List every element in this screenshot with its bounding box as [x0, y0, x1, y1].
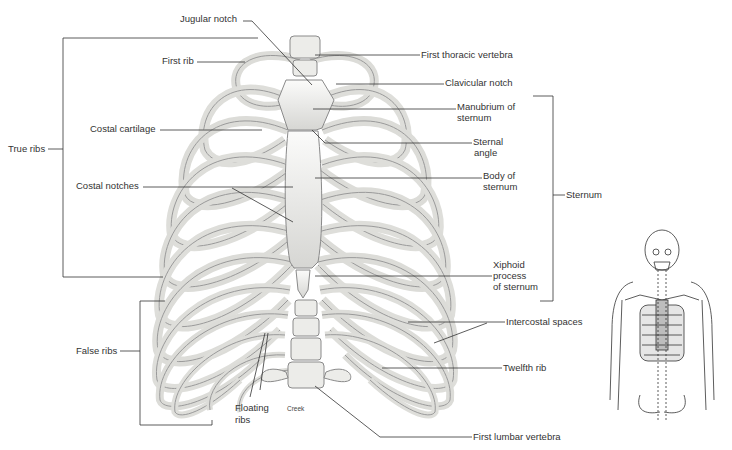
label-first-thoracic-vertebra: First thoracic vertebra	[421, 49, 513, 60]
label-floating-line1: Floating	[235, 402, 269, 413]
label-sternum: Sternum	[566, 189, 602, 200]
label-true-ribs: True ribs	[8, 143, 45, 154]
label-costal-cartilage: Costal cartilage	[90, 123, 155, 134]
label-false-ribs: False ribs	[76, 345, 117, 356]
label-body-line2: sternum	[483, 181, 517, 192]
artist-credit: Creek	[287, 403, 304, 414]
label-intercostal-spaces: Intercostal spaces	[506, 316, 583, 327]
label-sternal-angle-line2: angle	[474, 147, 497, 158]
label-manubrium-line1: Manubrium of	[457, 101, 515, 112]
label-xiphoid-line1: Xiphoid	[493, 259, 525, 270]
label-body-line1: Body of	[483, 170, 515, 181]
rib-cage-illustration	[0, 0, 732, 450]
inset-skeleton	[610, 230, 714, 420]
left-ribs	[156, 55, 300, 414]
thoracic-cage-diagram: Jugular notch First rib First thoracic v…	[0, 0, 732, 450]
label-manubrium-line2: sternum	[457, 112, 491, 123]
label-costal-notches: Costal notches	[76, 180, 139, 191]
label-first-rib: First rib	[162, 55, 194, 66]
label-twelfth-rib: Twelfth rib	[503, 362, 546, 373]
label-floating-line2: ribs	[235, 414, 250, 425]
label-clavicular-notch: Clavicular notch	[445, 77, 513, 88]
label-jugular-notch: Jugular notch	[180, 13, 237, 24]
label-xiphoid-line3: of sternum	[493, 281, 538, 292]
label-xiphoid-line2: process	[493, 270, 526, 281]
label-sternal-angle-line1: Sternal	[473, 136, 503, 147]
label-first-lumbar-vertebra: First lumbar vertebra	[473, 431, 561, 442]
